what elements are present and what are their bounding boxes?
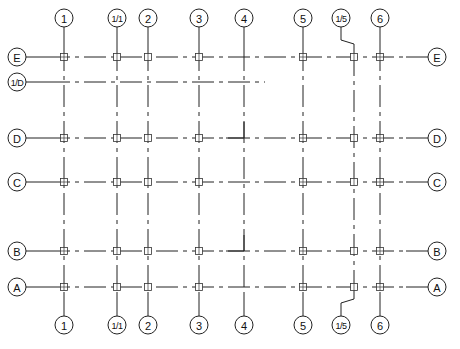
column-marker [114, 135, 121, 142]
column-bubble-label: 4 [241, 13, 247, 25]
column-bubble-2: 2 [139, 316, 157, 334]
column-bubble-label: 1/1 [111, 321, 123, 331]
column-bubble-1: 1 [55, 9, 73, 27]
column-marker [61, 135, 68, 142]
column-bubble-6: 6 [371, 9, 389, 27]
row-bubble-label: D [13, 133, 21, 145]
column-bubble-4: 4 [235, 9, 253, 27]
column-marker [145, 54, 152, 61]
column-marker [196, 179, 203, 186]
row-bubble-a: A [8, 278, 26, 296]
column-marker [351, 135, 358, 142]
column-marker [196, 54, 203, 61]
row-bubble-b: B [8, 242, 26, 260]
column-marker [114, 284, 121, 291]
grid-plan-drawing: 111/11/1223344551/51/566 EE1/DDDCCBBAA [0, 0, 460, 349]
column-bubble-label: 1 [61, 13, 67, 25]
column-bubble-1-1: 1/1 [108, 9, 126, 27]
column-bubble-1-5: 1/5 [332, 316, 350, 334]
column-marker [377, 248, 384, 255]
column-marker [377, 135, 384, 142]
column-marker [351, 54, 358, 61]
row-bubble-label: E [433, 52, 440, 64]
column-bubble-label: 5 [300, 320, 306, 332]
column-marker [351, 248, 358, 255]
column-marker [300, 54, 307, 61]
column-marker [377, 179, 384, 186]
column-marker [145, 284, 152, 291]
column-bubble-label: 4 [241, 320, 247, 332]
row-bubble-label: C [13, 177, 21, 189]
row-bubble-b: B [428, 242, 446, 260]
column-bubble-label: 1/5 [335, 321, 347, 331]
column-marker [377, 54, 384, 61]
column-bubble-3: 3 [190, 316, 208, 334]
row-bubble-d: D [8, 129, 26, 147]
column-bubble-1: 1 [55, 316, 73, 334]
column-bubble-label: 5 [300, 13, 306, 25]
row-bubble-1-d: 1/D [8, 73, 26, 91]
column-bubble-label: 3 [196, 320, 202, 332]
column-marker [377, 284, 384, 291]
column-line-jog-1-5 [341, 27, 354, 54]
column-marker [145, 135, 152, 142]
column-bubble-6: 6 [371, 316, 389, 334]
row-bubble-e: E [8, 48, 26, 66]
column-bubbles: 111/11/1223344551/51/566 [55, 9, 389, 334]
column-marker [196, 135, 203, 142]
row-bubble-c: C [8, 173, 26, 191]
row-bubble-c: C [428, 173, 446, 191]
column-bubble-label: 1 [61, 320, 67, 332]
column-marker [196, 248, 203, 255]
column-marker [351, 284, 358, 291]
column-marker [114, 248, 121, 255]
column-bubble-5: 5 [294, 316, 312, 334]
column-bubble-1-1: 1/1 [108, 316, 126, 334]
column-bubble-5: 5 [294, 9, 312, 27]
column-marker [61, 284, 68, 291]
row-bubble-label: B [433, 246, 440, 258]
column-marker [114, 179, 121, 186]
column-marker [300, 284, 307, 291]
row-bubble-a: A [428, 278, 446, 296]
column-marker [351, 179, 358, 186]
column-bubble-3: 3 [190, 9, 208, 27]
column-grid-lines [64, 27, 380, 316]
row-bubble-label: D [433, 133, 441, 145]
column-marker [300, 248, 307, 255]
row-bubble-label: 1/D [11, 78, 25, 88]
column-marker [196, 284, 203, 291]
row-bubble-label: E [13, 52, 20, 64]
l-shaped-line [226, 235, 244, 251]
row-grid-lines [26, 57, 428, 287]
row-bubble-label: C [433, 177, 441, 189]
row-bubble-d: D [428, 129, 446, 147]
row-bubble-label: A [433, 282, 441, 294]
row-bubble-label: B [13, 246, 20, 258]
column-bubble-label: 2 [145, 320, 151, 332]
column-bubble-label: 2 [145, 13, 151, 25]
row-bubble-label: A [13, 282, 21, 294]
column-marker [300, 179, 307, 186]
column-bubble-1-5: 1/5 [332, 9, 350, 27]
l-shaped-line [226, 122, 244, 138]
column-bubble-label: 1/5 [335, 14, 347, 24]
column-marker [61, 54, 68, 61]
column-marker [114, 54, 121, 61]
column-marker [145, 179, 152, 186]
row-bubble-e: E [428, 48, 446, 66]
column-marker [61, 179, 68, 186]
column-bubble-label: 1/1 [111, 14, 123, 24]
column-markers [61, 54, 384, 291]
annotation-lines [226, 122, 244, 251]
column-bubble-2: 2 [139, 9, 157, 27]
column-bubble-label: 6 [377, 13, 383, 25]
column-marker [61, 248, 68, 255]
column-line-jog-1-5 [341, 289, 354, 316]
column-marker [300, 135, 307, 142]
column-bubble-label: 3 [196, 13, 202, 25]
column-bubble-4: 4 [235, 316, 253, 334]
column-bubble-label: 6 [377, 320, 383, 332]
column-marker [145, 248, 152, 255]
